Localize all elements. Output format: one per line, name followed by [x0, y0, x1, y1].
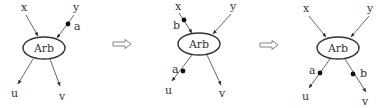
- output-label-u: u: [302, 90, 309, 103]
- token-dot-a: [318, 71, 323, 76]
- input-label-y: y: [229, 0, 237, 13]
- wire-v: [207, 55, 221, 85]
- token-dot-a: [66, 22, 71, 27]
- token-dot-b: [351, 72, 356, 77]
- arbiter-label: Arb: [327, 42, 348, 55]
- output-label-u: u: [165, 84, 172, 97]
- token-label-a: a: [172, 63, 179, 76]
- wire-v: [50, 59, 60, 86]
- input-label-y: y: [366, 2, 374, 15]
- token-label-a: a: [309, 64, 316, 77]
- double-arrow-right-icon: [260, 41, 278, 50]
- diagram-2: x y b Arb a u v: [165, 0, 237, 100]
- token-dot-a: [181, 69, 186, 74]
- arbiter-label: Arb: [188, 38, 209, 51]
- token-label-b: b: [360, 67, 367, 80]
- wire-u: [18, 59, 33, 84]
- token-label-b: b: [173, 19, 180, 32]
- output-label-v: v: [218, 87, 226, 100]
- wire-y: [351, 16, 369, 37]
- diagram-3: x y Arb a b u v: [302, 2, 374, 108]
- double-arrow-right-icon: [113, 40, 131, 49]
- arbiter-label: Arb: [33, 42, 54, 55]
- output-label-v: v: [58, 90, 66, 103]
- token-dot-b: [182, 18, 187, 23]
- wire-x: [309, 16, 326, 37]
- token-label-a: a: [74, 20, 81, 33]
- wire-x: [179, 13, 192, 33]
- arbiter-reduction-diagram: x y a Arb u v x y b Arb a u v x: [0, 0, 383, 108]
- input-label-x: x: [21, 1, 28, 14]
- output-label-u: u: [11, 87, 18, 100]
- input-label-x: x: [175, 0, 182, 13]
- output-label-v: v: [361, 95, 369, 108]
- diagram-1: x y a Arb u v: [11, 1, 81, 103]
- wire-y: [213, 14, 231, 34]
- wire-x: [26, 15, 38, 36]
- input-label-y: y: [72, 1, 80, 14]
- input-label-x: x: [303, 2, 310, 15]
- wire-y: [57, 15, 74, 38]
